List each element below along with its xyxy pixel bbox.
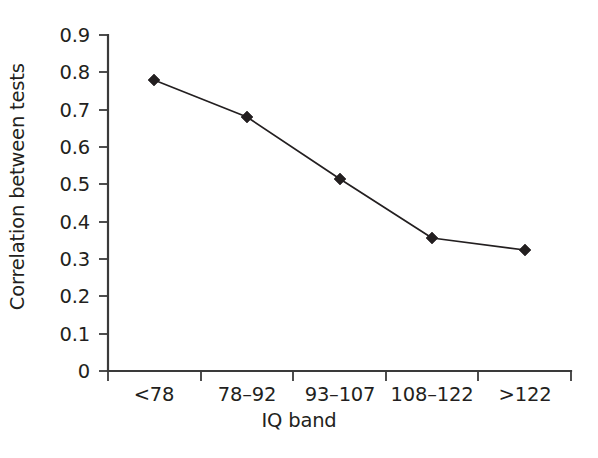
y-tick-label: 0 — [32, 362, 90, 382]
x-axis-ticks — [108, 371, 571, 381]
series-line-correlation — [154, 80, 525, 250]
x-axis-title: IQ band — [0, 411, 598, 431]
chart-figure: 0.9 0.8 0.7 0.6 0.5 0.4 0.3 0.2 0.1 0 <7… — [0, 0, 598, 458]
y-tick-label: 0.4 — [32, 213, 90, 233]
data-point-marker — [426, 232, 438, 244]
y-axis-ticks — [99, 35, 108, 371]
data-point-marker — [148, 74, 160, 86]
y-tick-label: 0.6 — [32, 138, 90, 158]
x-tick-label: >122 — [470, 385, 580, 405]
data-point-marker — [519, 244, 531, 256]
y-tick-label: 0.2 — [32, 287, 90, 307]
y-tick-label: 0.5 — [32, 175, 90, 195]
y-axis-title: Correlation between tests — [8, 22, 28, 352]
y-tick-label: 0.1 — [32, 325, 90, 345]
y-tick-label: 0.8 — [32, 63, 90, 83]
y-tick-label: 0.7 — [32, 101, 90, 121]
y-tick-label: 0.9 — [32, 26, 90, 46]
y-tick-label: 0.3 — [32, 250, 90, 270]
data-point-marker — [334, 173, 346, 185]
series-markers — [148, 74, 531, 256]
data-point-marker — [241, 111, 253, 123]
